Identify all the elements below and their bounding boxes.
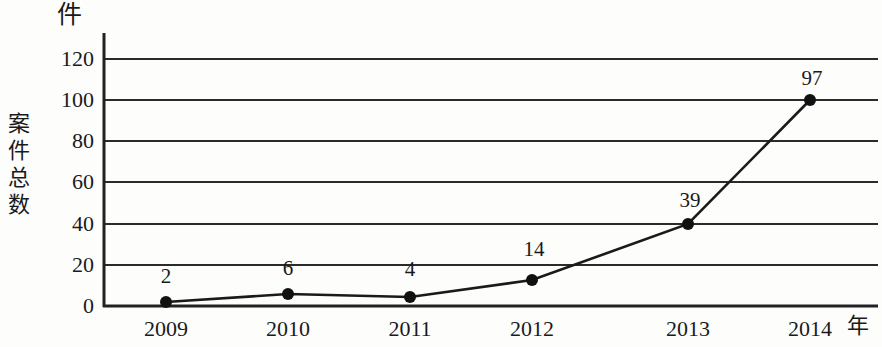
- data-point-marker: [160, 296, 172, 308]
- gridlines: [103, 59, 878, 265]
- data-point-label: 6: [283, 258, 294, 279]
- data-point-label: 39: [680, 190, 701, 211]
- x-axis-tick-label: 2014: [788, 318, 832, 340]
- data-point-marker: [282, 288, 294, 300]
- x-axis-unit-label: 年: [847, 315, 869, 337]
- x-axis-tick-label: 2011: [388, 318, 431, 340]
- series-markers: [160, 94, 816, 308]
- data-point-label: 4: [405, 259, 416, 280]
- data-point-label: 97: [802, 68, 823, 89]
- plot-area: [0, 0, 882, 347]
- x-axis-tick-label: 2010: [266, 318, 310, 340]
- line-chart: 件 案 件 总 数 120 100 80 60 40 20 0: [0, 0, 882, 347]
- x-axis-tick-label: 2013: [666, 318, 710, 340]
- x-axis-tick-label: 2009: [144, 318, 188, 340]
- data-point-marker: [526, 274, 538, 286]
- data-point-marker: [804, 94, 816, 106]
- x-axis-tick-label: 2012: [510, 318, 554, 340]
- data-point-marker: [404, 291, 416, 303]
- data-point-label: 2: [161, 266, 172, 287]
- data-point-marker: [682, 218, 694, 230]
- series-line: [166, 100, 810, 302]
- data-point-label: 14: [524, 239, 545, 260]
